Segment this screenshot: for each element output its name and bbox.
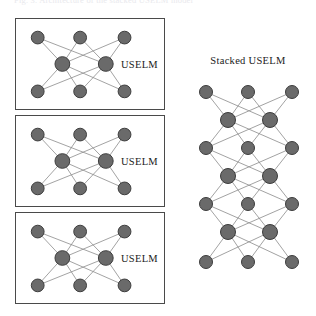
network-node [118,31,131,44]
uselm-block-label: USELM [121,253,158,264]
network-node [263,169,278,184]
network-node [118,279,131,292]
network-node [118,225,131,238]
network-node [74,31,87,44]
network-node [200,256,213,269]
network-node [200,86,213,99]
network-node [74,225,87,238]
network-node [263,113,278,128]
network-node [200,198,213,211]
network-node [31,182,44,195]
network-node [286,142,299,155]
network-node [263,225,278,240]
network-node [74,85,87,98]
network-node [74,279,87,292]
clipped-top-caption: Fig. 3. Architecture of the stacked USEL… [14,0,304,5]
network-node [74,182,87,195]
stacked-network-diagram [186,78,310,276]
network-node [31,31,44,44]
network-node [221,225,236,240]
network-node [242,256,255,269]
network-node [118,128,131,141]
network-node [242,86,255,99]
network-node [98,154,113,169]
network-node [286,198,299,211]
stacked-uselm-title: Stacked USELM [186,55,310,66]
network-node [98,251,113,266]
network-node [74,128,87,141]
network-node [55,154,70,169]
network-node [221,169,236,184]
network-node [242,142,255,155]
network-node [286,256,299,269]
network-node [55,251,70,266]
network-node [200,142,213,155]
uselm-block: USELM [15,212,165,304]
network-node [242,198,255,211]
network-node [286,86,299,99]
network-node [98,57,113,72]
network-node [31,85,44,98]
network-node [31,128,44,141]
network-node [55,57,70,72]
network-node [31,225,44,238]
stacked-uselm-network [186,78,310,276]
network-node [118,182,131,195]
network-node [221,113,236,128]
uselm-block: USELM [15,115,165,207]
network-node [118,85,131,98]
figure-root: Fig. 3. Architecture of the stacked USEL… [0,0,316,316]
network-node [31,279,44,292]
uselm-block-label: USELM [121,156,158,167]
uselm-block: USELM [15,18,165,110]
uselm-block-label: USELM [121,59,158,70]
